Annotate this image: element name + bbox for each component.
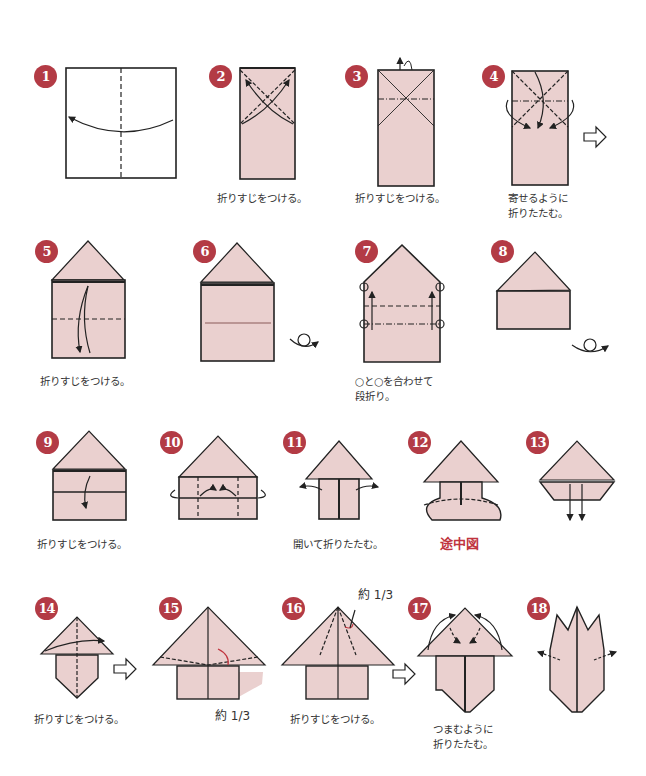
step-11-caption: 開いて折りたたむ。 [293, 537, 383, 552]
step-5-caption: 折りすじをつける。 [40, 374, 130, 389]
step-badge-6: 6 [193, 240, 216, 263]
step-4-caption-line2: 折りたたむ。 [508, 206, 568, 221]
step-12-caption-in-progress: 途中図 [440, 536, 479, 551]
step-badge-12: 12 [408, 431, 431, 454]
next-arrow-icon [114, 659, 136, 679]
step-17-caption-line1: つまむように [433, 722, 493, 737]
step-7-caption-line2: 段折り。 [355, 389, 395, 404]
step-17-figure [418, 608, 512, 712]
step-9-caption: 折りすじをつける。 [37, 537, 127, 552]
step-badge-14: 14 [35, 597, 58, 620]
step-badge-2: 2 [209, 65, 232, 88]
next-arrow-icon [393, 664, 415, 684]
step-8-figure [497, 252, 608, 352]
step-badge-8: 8 [491, 240, 514, 263]
step-badge-7: 7 [355, 240, 378, 263]
step-15-figure [153, 607, 265, 699]
step-badge-1: 1 [34, 65, 57, 88]
step-badge-16: 16 [282, 597, 305, 620]
step-badge-4: 4 [482, 65, 505, 88]
step-1-figure [66, 68, 176, 178]
step-badge-13: 13 [526, 431, 549, 454]
step-2-caption: 折りすじをつける。 [217, 191, 307, 206]
step-badge-11: 11 [283, 431, 306, 454]
step-7-figure [360, 245, 444, 362]
step-badge-15: 15 [159, 597, 182, 620]
step-13-figure [540, 441, 614, 520]
step-4-figure [506, 71, 606, 185]
step-14-caption: 折りすじをつける。 [34, 712, 124, 727]
step-6-figure [201, 243, 318, 361]
next-arrow-icon [584, 127, 606, 147]
step-badge-10: 10 [160, 431, 183, 454]
step-badge-5: 5 [35, 240, 58, 263]
step-badge-18: 18 [527, 597, 550, 620]
step-17-caption-line2: 折りたたむ。 [433, 737, 493, 752]
step-badge-3: 3 [345, 65, 368, 88]
step-7-caption-line1: ○と○を合わせて [355, 374, 433, 389]
step-2-figure [240, 68, 295, 179]
step-14-figure [41, 617, 136, 698]
step-5-figure [52, 241, 125, 358]
step-16-angle-note: 約 1/3 [358, 585, 393, 602]
step-10-figure [171, 436, 266, 519]
step-15-angle-note: 約 1/3 [215, 706, 250, 723]
step-badge-17: 17 [408, 597, 431, 620]
step-12-figure [424, 441, 501, 520]
step-11-figure [300, 441, 378, 519]
step-9-figure [53, 431, 126, 520]
turn-over-icon [290, 339, 318, 346]
step-3-figure [378, 58, 434, 186]
step-4-caption-line1: 寄せるように [508, 191, 568, 206]
step-16-figure [282, 607, 415, 699]
step-badge-9: 9 [36, 431, 59, 454]
step-18-figure [538, 607, 616, 712]
step-3-caption: 折りすじをつける。 [355, 191, 445, 206]
step-16-caption: 折りすじをつける。 [290, 712, 380, 727]
